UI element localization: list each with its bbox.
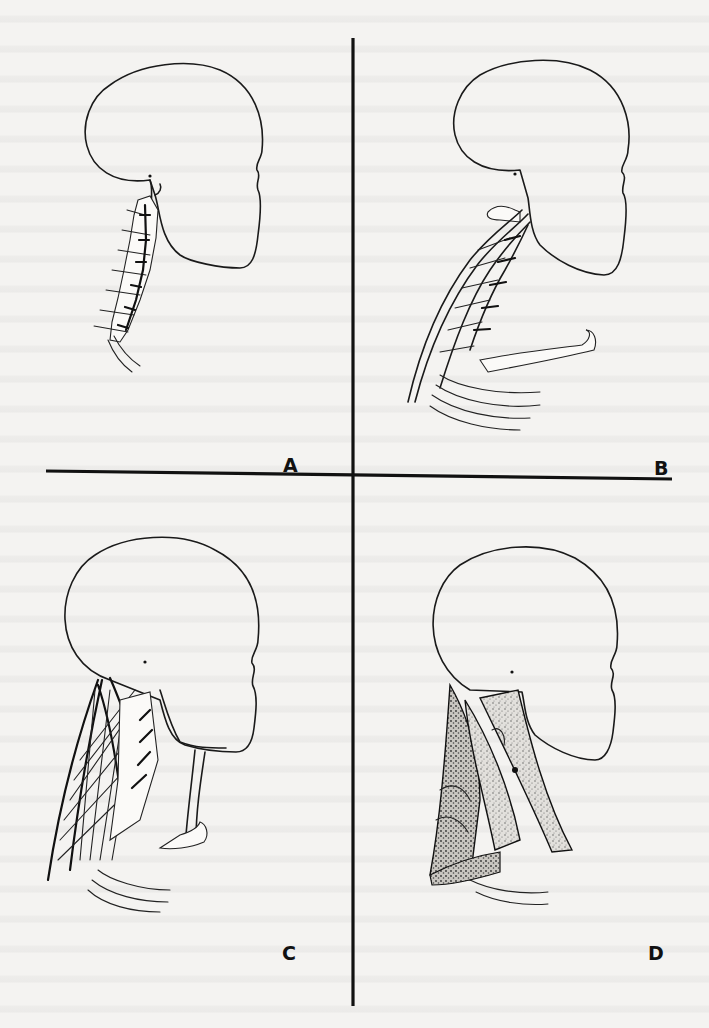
figure-canvas: [0, 0, 709, 1028]
horizontal-divider: [46, 471, 672, 479]
panel-a-drawing: [85, 64, 262, 372]
panel-label-a: A: [283, 454, 298, 476]
panel-label-d: D: [648, 942, 664, 964]
panel-d-drawing: [430, 547, 618, 905]
panel-c-drawing: [48, 537, 259, 912]
panel-b-drawing: [408, 60, 629, 430]
panel-label-b: B: [654, 457, 668, 479]
figure-page: A B C D: [0, 0, 709, 1028]
panel-label-c: C: [282, 942, 296, 964]
